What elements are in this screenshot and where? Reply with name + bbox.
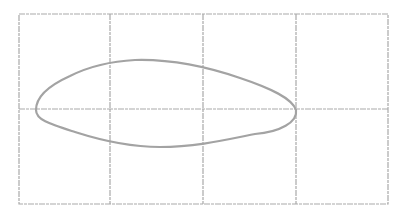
diagram-canvas	[0, 0, 401, 215]
closed-curve	[36, 60, 296, 147]
grid	[19, 14, 388, 204]
